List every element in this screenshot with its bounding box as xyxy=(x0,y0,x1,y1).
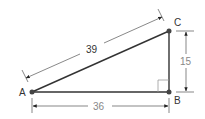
vertex-c xyxy=(167,29,172,34)
dim-line-ac-2 xyxy=(104,17,162,43)
dim-ext-ac-a xyxy=(22,70,28,82)
triangle-diagram: A B C 39 36 15 xyxy=(0,0,205,119)
vertex-a xyxy=(30,90,35,95)
dim-ext-ac-c xyxy=(158,9,164,21)
label-b: B xyxy=(174,95,181,106)
label-a: A xyxy=(19,87,26,98)
vertex-b xyxy=(167,90,172,95)
length-ab: 36 xyxy=(93,101,105,112)
length-bc: 15 xyxy=(180,56,192,67)
side-ac xyxy=(32,31,169,92)
label-c: C xyxy=(174,17,181,28)
length-ac: 39 xyxy=(86,44,98,55)
